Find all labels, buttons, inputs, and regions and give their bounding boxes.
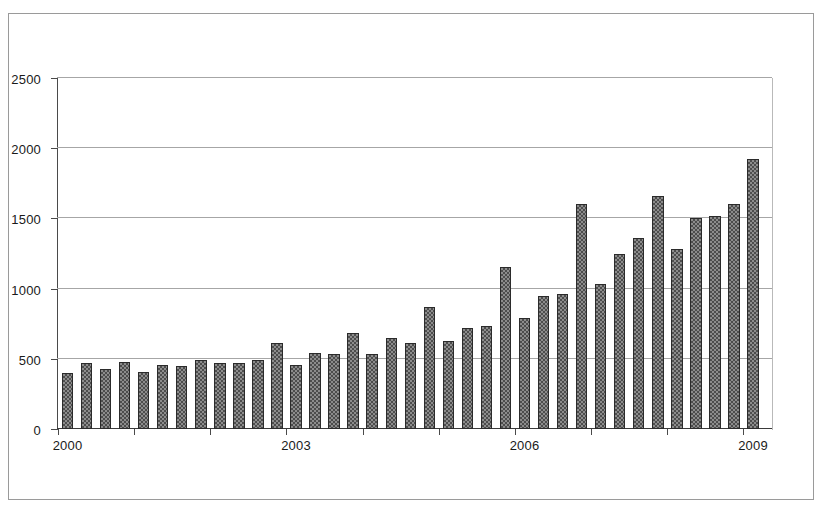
bar[interactable]	[424, 307, 435, 429]
y-tick-label-2000: 2000	[11, 142, 41, 157]
bar[interactable]	[233, 363, 244, 429]
bar[interactable]	[271, 343, 282, 429]
bar[interactable]	[309, 353, 320, 429]
bar[interactable]	[81, 363, 92, 429]
y-tick-label-0: 0	[34, 423, 41, 438]
x-tick-label-2009: 2009	[738, 438, 768, 453]
bar[interactable]	[290, 365, 301, 429]
bar-chart-figure: 05001000150020002500 2000200320062009	[0, 0, 826, 527]
bar[interactable]	[557, 294, 568, 429]
bar[interactable]	[633, 238, 644, 429]
bar[interactable]	[500, 267, 511, 429]
x-tick-mark	[515, 429, 516, 435]
x-tick-mark	[210, 429, 211, 435]
x-axis-tick-labels: 2000200320062009	[0, 438, 826, 460]
x-axis-tick-marks	[57, 429, 773, 436]
bar[interactable]	[119, 362, 130, 429]
y-tick-mark-2000	[51, 148, 57, 149]
bar[interactable]	[195, 360, 206, 429]
y-tick-mark-1000	[51, 289, 57, 290]
plot-area	[57, 78, 772, 429]
y-axis-tick-labels: 05001000150020002500	[0, 78, 47, 430]
y-tick-mark-0	[51, 429, 57, 430]
gridline-1500	[57, 217, 772, 218]
y-tick-mark-1500	[51, 218, 57, 219]
x-tick-mark	[286, 429, 287, 435]
bar[interactable]	[709, 216, 720, 429]
bar[interactable]	[728, 204, 739, 429]
y-tick-mark-500	[51, 359, 57, 360]
bar[interactable]	[405, 343, 416, 429]
bar[interactable]	[386, 338, 397, 429]
bar[interactable]	[671, 249, 682, 429]
bar[interactable]	[366, 354, 377, 429]
bar[interactable]	[347, 333, 358, 429]
y-tick-label-2500: 2500	[11, 72, 41, 87]
bar[interactable]	[690, 218, 701, 429]
x-tick-mark	[439, 429, 440, 435]
x-tick-mark	[667, 429, 668, 435]
x-tick-mark	[134, 429, 135, 435]
y-tick-label-1000: 1000	[11, 283, 41, 298]
gridline-2000	[57, 147, 772, 148]
bar[interactable]	[443, 341, 454, 429]
bar[interactable]	[519, 318, 530, 429]
x-tick-mark	[58, 429, 59, 435]
bar[interactable]	[157, 365, 168, 429]
x-tick-mark	[743, 429, 744, 435]
gridline-1000	[57, 288, 772, 289]
x-tick-label-2006: 2006	[510, 438, 540, 453]
bar[interactable]	[747, 159, 758, 429]
bar[interactable]	[595, 284, 606, 429]
bar[interactable]	[538, 296, 549, 429]
bar[interactable]	[62, 373, 73, 429]
bar[interactable]	[252, 360, 263, 429]
bar[interactable]	[614, 254, 625, 430]
bar[interactable]	[214, 363, 225, 429]
bar[interactable]	[138, 372, 149, 429]
bar[interactable]	[481, 326, 492, 429]
right-axis-line	[772, 78, 773, 430]
x-tick-mark	[591, 429, 592, 435]
bar[interactable]	[576, 204, 587, 429]
bar[interactable]	[100, 369, 111, 429]
y-tick-label-1500: 1500	[11, 212, 41, 227]
x-tick-label-2000: 2000	[53, 438, 83, 453]
x-tick-mark	[363, 429, 364, 435]
x-tick-label-2003: 2003	[281, 438, 311, 453]
y-tick-label-500: 500	[19, 353, 41, 368]
bar[interactable]	[176, 366, 187, 429]
gridline-2500	[57, 77, 772, 78]
y-tick-mark-2500	[51, 78, 57, 79]
bar[interactable]	[652, 196, 663, 429]
bar[interactable]	[462, 328, 473, 429]
bar[interactable]	[328, 354, 339, 429]
